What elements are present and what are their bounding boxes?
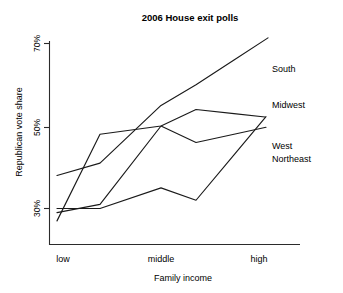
x-tick-label-high: high <box>250 254 267 264</box>
series-label-northeast: Northeast <box>272 154 312 164</box>
y-tick-label-50: 50% <box>32 119 42 136</box>
y-axis-title: Republican vote share <box>14 87 24 177</box>
x-axis-title: Family income <box>154 273 212 283</box>
series-label-midwest: Midwest <box>272 100 306 110</box>
x-tick-label-low: low <box>56 254 70 264</box>
chart-container: 2006 House exit polls 70% 50% 30% Republ… <box>0 0 343 293</box>
series-label-south: South <box>272 64 296 74</box>
y-tick-label-30: 30% <box>32 200 42 217</box>
y-tick-label-70: 70% <box>32 35 42 52</box>
exit-polls-line-chart: 2006 House exit polls 70% 50% 30% Republ… <box>0 0 343 293</box>
x-tick-label-middle: middle <box>148 254 175 264</box>
chart-title: 2006 House exit polls <box>142 12 239 23</box>
series-label-west: West <box>272 141 293 151</box>
